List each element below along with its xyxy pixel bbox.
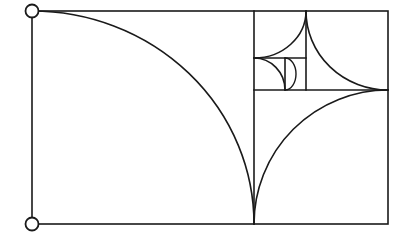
- spiral-arc-fib-8: [32, 11, 254, 224]
- spiral-arc-fib-5: [254, 90, 388, 224]
- outer-golden-rectangle: [32, 11, 388, 224]
- node-marker-bottom-left: [26, 218, 39, 231]
- spiral-arc-fib-2: [254, 11, 306, 58]
- golden-spiral-canvas: [0, 0, 411, 246]
- spiral-arc-fib-1b: [285, 58, 296, 90]
- spiral-arc-fib-3: [306, 11, 388, 90]
- spiral-arc-fib-1a: [254, 58, 285, 90]
- golden-spiral-figure: Golden Ratio Fibonacci Spiral Diagram Go…: [0, 0, 411, 246]
- node-marker-top-left: [26, 5, 39, 18]
